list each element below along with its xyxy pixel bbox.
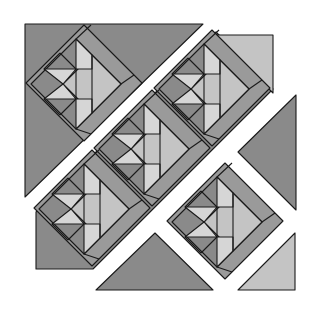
quilt-diagram: Quilt block layout — fish blocks on poin… bbox=[0, 0, 312, 309]
quilt-svg bbox=[0, 0, 312, 309]
